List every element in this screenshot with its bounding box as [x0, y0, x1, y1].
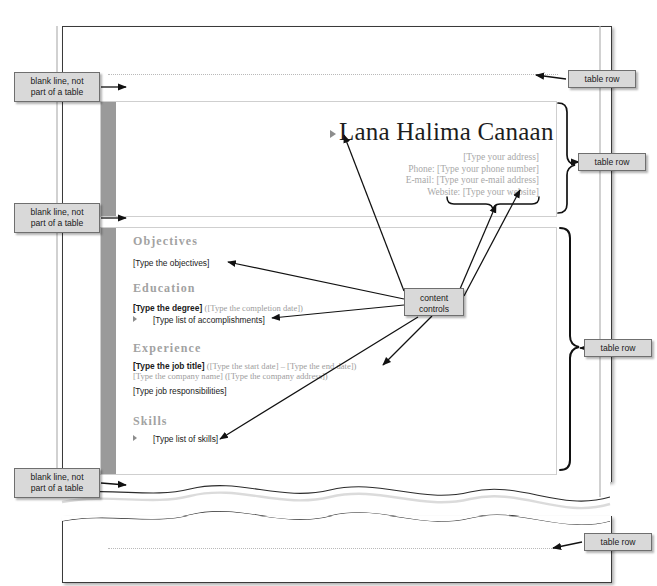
callout-table-row-2: table row	[578, 153, 646, 171]
brace-header-table-row	[558, 103, 575, 213]
callout-blank-line-middle: blank line, not part of a table	[14, 203, 100, 233]
brace-content-control-website	[447, 197, 539, 211]
arrow-cc-to-accomplishments	[272, 305, 404, 318]
screenshot-canvas: Lana Halima Canaan [Type your address] P…	[0, 0, 657, 586]
callout-table-row-3: table row	[584, 339, 652, 357]
arrow-cc-to-objectives	[228, 262, 404, 299]
callout-line-1: blank line, not	[30, 472, 83, 482]
page-break-wave	[62, 481, 610, 525]
callout-line-2: part of a table	[31, 87, 84, 97]
callout-content-controls: content controls	[404, 288, 464, 316]
brace-main-table-row	[560, 228, 579, 470]
callout-line-2: part of a table	[31, 483, 84, 493]
callout-blank-line-top: blank line, not part of a table	[14, 72, 100, 102]
callout-table-row-4: table row	[584, 533, 652, 551]
callout-line-1: blank line, not	[30, 76, 83, 86]
content-control-arrow-group	[220, 135, 520, 439]
arrow-table-row-bottom	[553, 542, 582, 548]
callout-line-1: blank line, not	[30, 207, 83, 217]
callout-line-1: content	[420, 293, 448, 303]
arrow-cc-to-website	[460, 205, 496, 289]
arrow-cc-to-skills	[220, 317, 418, 439]
arrow-cc-to-name	[344, 135, 404, 291]
callout-blank-line-bottom: blank line, not part of a table	[14, 468, 100, 498]
arrow-table-row-top	[536, 75, 566, 79]
callout-line-2: controls	[419, 304, 449, 314]
callout-line-2: part of a table	[31, 218, 84, 228]
callout-table-row-1: table row	[568, 70, 636, 88]
